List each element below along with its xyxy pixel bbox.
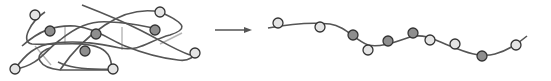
manifold-curves — [15, 5, 195, 70]
manifold-curve — [58, 62, 113, 69]
unfolded-node-dark — [348, 30, 358, 40]
manifold-node-dark — [91, 29, 101, 39]
unfolded-node-light — [315, 22, 325, 32]
unfolded-curve-panel — [268, 18, 527, 61]
unfolded-node-light — [511, 40, 521, 50]
manifold-node-dark — [80, 46, 90, 56]
manifold-curve — [27, 12, 113, 70]
unfolded-curve — [268, 23, 527, 55]
unfolded-node-dark — [408, 28, 418, 38]
tangled-manifold-panel — [10, 5, 200, 74]
manifold-node-light — [190, 48, 200, 58]
manifold-node-light — [10, 64, 20, 74]
manifold-node-dark — [45, 26, 55, 36]
manifold-unfolding-diagram — [0, 0, 551, 81]
unfolded-node-light — [450, 39, 460, 49]
unfolded-node-light — [425, 35, 435, 45]
unfolded-nodes — [273, 18, 521, 61]
unfolded-node-light — [273, 18, 283, 28]
unfolded-node-dark — [477, 51, 487, 61]
unfolded-node-dark — [383, 36, 393, 46]
manifold-node-light — [30, 10, 40, 20]
arrow-head-icon — [244, 27, 252, 33]
manifold-node-light — [108, 64, 118, 74]
unfolded-node-light — [363, 45, 373, 55]
manifold-node-dark — [150, 25, 160, 35]
mapping-arrow — [215, 27, 252, 33]
manifold-node-light — [155, 7, 165, 17]
